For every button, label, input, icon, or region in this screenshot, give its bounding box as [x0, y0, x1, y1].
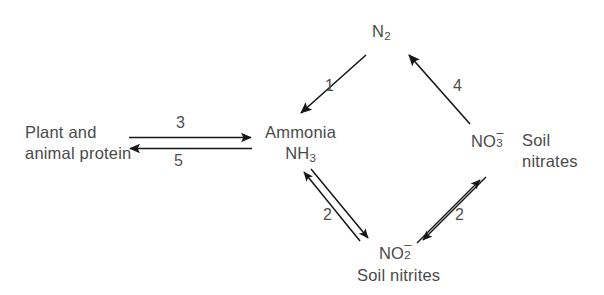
node-plant-animal-protein: Plant and animal protein — [25, 122, 131, 164]
nitrate-caption-line1: Soil — [522, 130, 578, 151]
edge-label-nitrate-to-n2: 4 — [453, 78, 462, 94]
node-nitrate: NO3– — [471, 131, 506, 152]
edge-label-ammonia-nitrite: 2 — [323, 207, 332, 223]
ammonia-name: Ammonia — [265, 122, 336, 143]
nitrate-caption-line2: nitrates — [522, 151, 578, 172]
nitrite-charge-group: 2– — [404, 243, 414, 264]
edge-label-ammonia-to-protein: 5 — [174, 153, 183, 169]
protein-label-line2: animal protein — [25, 143, 131, 164]
n2-base: N — [372, 22, 384, 40]
arrow-ammonia-to-nitrite — [311, 169, 368, 238]
arrow-nitrite-to-nitrate — [417, 180, 480, 243]
arrow-nitrite-to-ammonia — [304, 172, 360, 241]
nitrogen-cycle-diagram: Plant and animal protein N2 Ammonia NH3 … — [0, 0, 604, 295]
nitrite-caption: Soil nitrites — [357, 265, 440, 286]
nitrate-charge: – — [496, 125, 503, 142]
node-n2: N2 — [372, 21, 391, 44]
nitrite-base: NO — [379, 244, 404, 262]
nitrate-base: NO — [471, 132, 496, 150]
edge-label-protein-to-ammonia: 3 — [176, 115, 185, 131]
n2-subscript: 2 — [384, 30, 390, 42]
node-nitrite: NO2– — [379, 243, 414, 264]
node-ammonia: Ammonia NH3 — [265, 122, 336, 166]
ammonia-formula-subscript: 3 — [309, 152, 315, 164]
edge-label-nitrite-nitrate: 2 — [455, 207, 464, 223]
nitrate-charge-group: 3– — [496, 131, 506, 152]
protein-label-line1: Plant and — [25, 122, 131, 143]
nitrite-charge: – — [404, 237, 411, 254]
nitrate-caption: Soil nitrates — [522, 130, 578, 173]
edge-label-n2-to-ammonia: 1 — [325, 78, 334, 94]
ammonia-formula-base: NH — [285, 144, 309, 162]
